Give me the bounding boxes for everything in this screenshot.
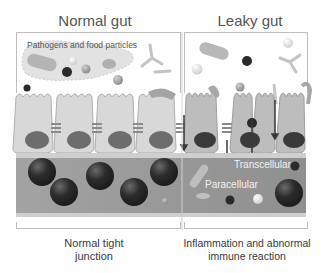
leaky-caption-line1: Inflammation and abnormal xyxy=(180,237,314,250)
normal-caption: Normal tight junction xyxy=(38,237,150,263)
basement-membrane xyxy=(16,153,306,158)
leaky-caption: Inflammation and abnormal immune reactio… xyxy=(180,237,314,263)
normal-epithelial-cells xyxy=(13,88,186,153)
transcellular-label: Transcellular xyxy=(234,159,291,170)
pathogens-label: Pathogens and food particles xyxy=(27,40,137,50)
leaky-caption-line2: immune reaction xyxy=(180,250,314,263)
leaky-bracket xyxy=(184,222,308,229)
normal-caption-line2: junction xyxy=(38,250,150,263)
normal-caption-line1: Normal tight xyxy=(38,237,150,250)
paracellular-label: Paracellular xyxy=(205,179,258,190)
normal-bracket xyxy=(16,222,181,229)
